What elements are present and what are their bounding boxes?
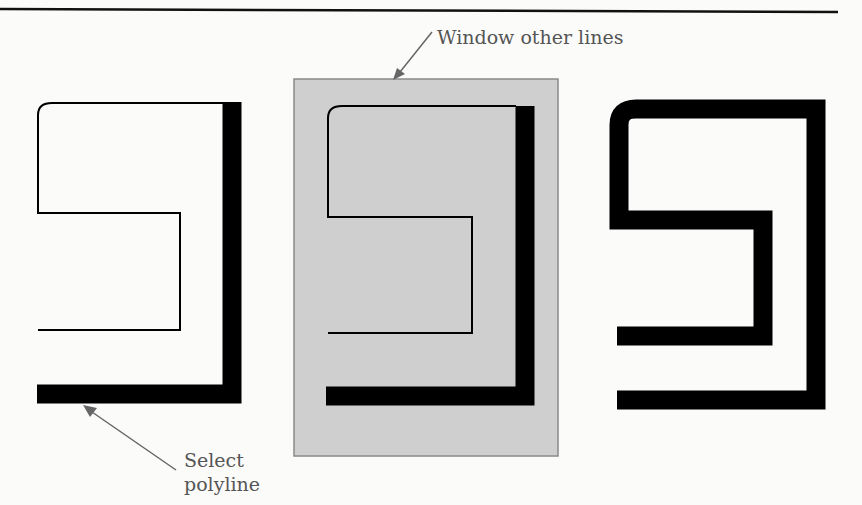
panel-windowed-polyline bbox=[294, 79, 558, 456]
thin-polyline bbox=[38, 103, 226, 330]
selected-thick-segment bbox=[37, 102, 232, 394]
callout-select-polyline: Select polyline bbox=[83, 405, 260, 495]
panel-result-polyline bbox=[617, 109, 816, 400]
thick-polyline bbox=[617, 109, 816, 400]
top-rule bbox=[0, 9, 838, 12]
label-polyline: polyline bbox=[184, 473, 260, 495]
label-window-other-lines: Window other lines bbox=[437, 26, 623, 48]
panel-selected-polyline bbox=[37, 102, 232, 394]
callout-window-other-lines: Window other lines bbox=[393, 26, 623, 80]
diagram-canvas: Window other lines Select polyline bbox=[0, 0, 862, 505]
label-select: Select bbox=[184, 449, 244, 471]
